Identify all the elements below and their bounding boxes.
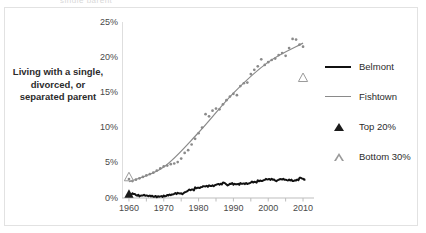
- clipped-header-text: single parent: [60, 0, 200, 3]
- legend-item-fishtown[interactable]: Fishtown: [325, 90, 421, 120]
- y-tick-label: 10%: [84, 123, 118, 132]
- fishtown-data-point: [239, 85, 242, 88]
- fishtown-data-point: [270, 59, 273, 62]
- legend-label: Bottom 30%: [359, 151, 411, 162]
- legend-label: Fishtown: [359, 91, 397, 102]
- fishtown-data-point: [145, 174, 148, 177]
- fishtown-data-point: [190, 143, 193, 146]
- y-tick-label: 5%: [84, 158, 118, 167]
- fishtown-data-point: [281, 52, 284, 55]
- fishtown-data-point: [232, 92, 235, 95]
- fishtown-data-point: [135, 178, 138, 181]
- fishtown-data-point: [183, 152, 186, 155]
- fishtown-line-swatch-icon: [325, 90, 355, 104]
- fishtown-data-point: [208, 115, 211, 118]
- belmont-line: [129, 178, 305, 198]
- fishtown-data-point: [249, 73, 252, 76]
- fishtown-data-point: [260, 58, 263, 61]
- fishtown-data-point: [152, 171, 155, 174]
- chart-legend: Belmont Fishtown Top 20% Bottom 30%: [325, 60, 421, 180]
- x-axis-tick-labels: 196019701980199020002010: [122, 203, 310, 217]
- fishtown-data-point: [162, 165, 165, 168]
- x-tick-label: 1980: [189, 203, 209, 213]
- fishtown-data-point: [267, 61, 270, 64]
- plot-svg: [122, 22, 316, 208]
- triangle-filled-icon: [325, 120, 355, 134]
- y-axis-tick-labels: 0%5%10%15%20%25%: [82, 0, 118, 233]
- x-tick-label: 2010: [293, 203, 313, 213]
- fishtown-data-point: [291, 38, 294, 41]
- fishtown-data-point: [176, 161, 179, 164]
- fishtown-data-point: [274, 57, 277, 60]
- x-tick-label: 1960: [119, 203, 139, 213]
- legend-item-top-20[interactable]: Top 20%: [325, 120, 421, 150]
- fishtown-data-point: [194, 138, 197, 141]
- fishtown-data-point: [204, 113, 207, 116]
- fishtown-data-point: [180, 157, 183, 160]
- fishtown-data-point: [128, 178, 131, 181]
- x-tick-label: 1970: [154, 203, 174, 213]
- fishtown-data-point: [298, 43, 301, 46]
- legend-item-bottom-30[interactable]: Bottom 30%: [325, 150, 421, 180]
- y-tick-label: 0%: [84, 194, 118, 203]
- fishtown-data-point: [253, 69, 256, 72]
- marker-bottom-30: [298, 73, 307, 82]
- fishtown-data-point: [201, 126, 204, 129]
- fishtown-trend-line: [129, 43, 303, 182]
- fishtown-data-point: [236, 94, 239, 97]
- fishtown-data-point: [256, 65, 259, 68]
- fishtown-data-point: [288, 47, 291, 50]
- fishtown-data-point: [142, 176, 145, 179]
- belmont-line-swatch-icon: [325, 60, 355, 74]
- fishtown-data-point: [169, 163, 172, 166]
- fishtown-data-point: [295, 38, 298, 41]
- fishtown-data-point: [263, 64, 266, 67]
- x-tick-label: 2000: [258, 203, 278, 213]
- y-tick-label: 20%: [84, 53, 118, 62]
- fishtown-data-point: [173, 162, 176, 165]
- fishtown-data-point: [243, 82, 246, 85]
- fishtown-data-point: [166, 164, 169, 167]
- fishtown-data-point: [159, 167, 162, 170]
- y-tick-label: 25%: [84, 18, 118, 27]
- fishtown-data-point: [222, 103, 225, 106]
- fishtown-data-point: [187, 149, 190, 152]
- legend-label: Top 20%: [359, 121, 396, 132]
- legend-item-belmont[interactable]: Belmont: [325, 60, 421, 90]
- triangle-open-icon: [325, 150, 355, 164]
- legend-label: Belmont: [359, 61, 394, 72]
- fishtown-data-point: [284, 54, 287, 57]
- fishtown-data-point: [302, 45, 305, 48]
- fishtown-data-point: [277, 54, 280, 57]
- fishtown-data-point: [155, 169, 158, 172]
- fishtown-data-point: [215, 107, 218, 110]
- x-tick-label: 1990: [223, 203, 243, 213]
- plot-area: [122, 22, 310, 198]
- fishtown-data-point: [149, 173, 152, 176]
- fishtown-data-point: [197, 132, 200, 135]
- fishtown-data-point: [246, 81, 249, 84]
- fishtown-data-point: [225, 99, 228, 102]
- fishtown-data-point: [218, 108, 221, 111]
- y-tick-label: 15%: [84, 88, 118, 97]
- fishtown-data-point: [229, 95, 232, 98]
- fishtown-data-point: [138, 177, 141, 180]
- fishtown-data-point: [211, 109, 214, 112]
